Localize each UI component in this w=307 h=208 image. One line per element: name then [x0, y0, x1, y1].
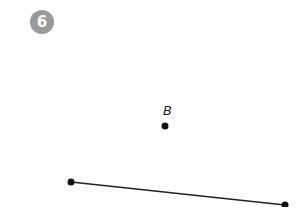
- line-segment: [71, 182, 285, 205]
- segment-endpoint-left: [68, 179, 75, 186]
- point-b: [162, 123, 169, 130]
- segment-endpoint-right: [282, 202, 289, 208]
- geometry-diagram: [0, 0, 307, 207]
- point-b-label: B: [163, 103, 172, 118]
